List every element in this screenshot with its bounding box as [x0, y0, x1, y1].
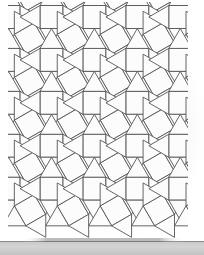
contact-shadow	[22, 238, 184, 242]
ground-plane	[0, 241, 204, 255]
tiling-canvas	[0, 0, 204, 255]
tiling-figure	[0, 0, 204, 255]
ground-layer	[0, 238, 204, 255]
tiles-layer	[0, 0, 204, 237]
